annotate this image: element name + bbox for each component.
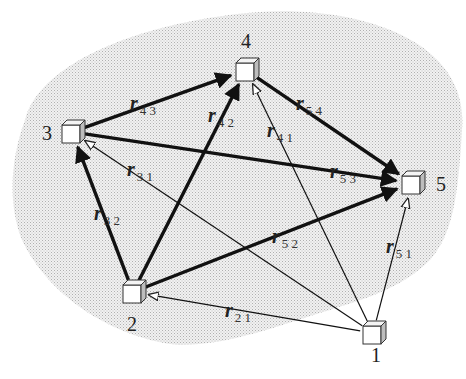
node-label-3: 3	[42, 122, 52, 144]
network-diagram: r4 3r4 2r5 4r4 1r5 3r3 1r3 2r5 2r5 1r2 1…	[0, 0, 466, 379]
node-label-5: 5	[436, 173, 446, 195]
node-3	[62, 120, 85, 143]
node-label-4: 4	[241, 30, 251, 52]
node-1	[363, 321, 386, 344]
node-label-1: 1	[371, 344, 381, 366]
cube-icon	[62, 125, 80, 143]
node-label-2: 2	[127, 313, 137, 335]
cube-icon	[123, 285, 141, 303]
cube-icon	[236, 63, 254, 81]
node-4	[236, 58, 259, 81]
cube-icon	[402, 176, 420, 194]
cube-icon	[363, 326, 381, 344]
node-2	[123, 280, 146, 303]
node-5	[402, 171, 425, 194]
